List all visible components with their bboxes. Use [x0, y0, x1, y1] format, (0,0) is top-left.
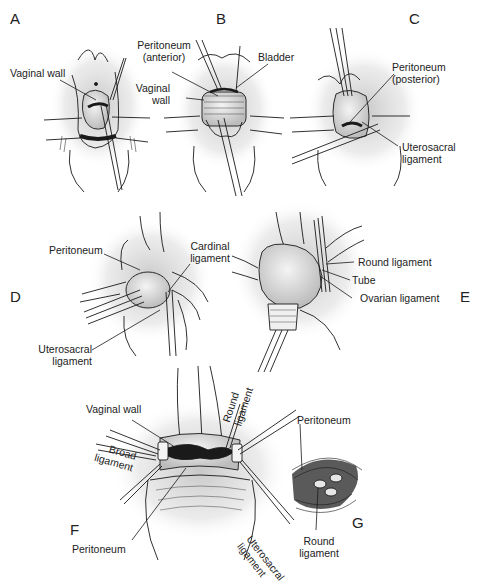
label-d-cardinal-line1: Cardinal — [188, 240, 232, 252]
label-c-uterosacral-ligament: Uterosacral ligament — [402, 141, 456, 165]
label-e-round-ligament: Round ligament — [358, 256, 432, 268]
label-e-tube: Tube — [352, 274, 376, 286]
label-d-peritoneum: Peritoneum — [49, 244, 103, 256]
label-g-round-line2: ligament — [294, 547, 344, 559]
panel-e-drawing — [232, 200, 368, 372]
label-b-peritoneum-line1: Peritoneum — [130, 39, 198, 51]
panel-letter-c: C — [409, 11, 420, 26]
label-c-peritoneum-line2: (posterior) — [392, 73, 446, 85]
label-c-uterosacral-line1: Uterosacral — [402, 141, 456, 153]
label-d-uterosacral-line1: Uterosacral — [36, 343, 92, 355]
label-b-peritoneum-line2: (anterior) — [130, 51, 198, 63]
label-b-peritoneum-anterior: Peritoneum (anterior) — [130, 39, 198, 63]
label-g-peritoneum: Peritoneum — [297, 414, 351, 426]
label-f-vaginal-wall: Vaginal wall — [86, 403, 141, 415]
label-d-uterosacral-ligament: Uterosacral ligament — [36, 343, 92, 367]
label-b-vaginal-wall: Vaginal wall — [134, 82, 170, 106]
label-c-uterosacral-line2: ligament — [402, 153, 456, 165]
label-b-bladder: Bladder — [258, 51, 294, 63]
label-b-vaginal-line1: Vaginal — [134, 82, 170, 94]
label-g-round-ligament: Round ligament — [294, 535, 344, 559]
panel-letter-d: D — [10, 289, 21, 304]
panel-letter-f: F — [70, 522, 79, 537]
panel-d-drawing — [80, 212, 212, 356]
label-d-uterosacral-line2: ligament — [36, 355, 92, 367]
label-d-cardinal-ligament: Cardinal ligament — [188, 240, 232, 264]
label-f-peritoneum: Peritoneum — [72, 543, 126, 555]
label-c-peritoneum-line1: Peritoneum — [392, 61, 446, 73]
panel-letter-e: E — [460, 289, 470, 304]
label-d-cardinal-line2: ligament — [188, 252, 232, 264]
label-b-vaginal-line2: wall — [134, 94, 170, 106]
label-e-ovarian-ligament: Ovarian ligament — [360, 292, 439, 304]
label-g-round-line1: Round — [294, 535, 344, 547]
panel-letter-g: G — [352, 515, 364, 530]
panel-a-drawing — [44, 43, 150, 192]
surgical-figure: A B C D E F G Vaginal wall Peritoneum (a… — [0, 0, 482, 588]
panel-letter-a: A — [10, 11, 20, 26]
label-c-peritoneum-posterior: Peritoneum (posterior) — [392, 61, 446, 85]
panel-b-drawing — [164, 40, 284, 196]
panel-letter-b: B — [216, 11, 226, 26]
label-a-vaginal-wall: Vaginal wall — [10, 67, 65, 79]
